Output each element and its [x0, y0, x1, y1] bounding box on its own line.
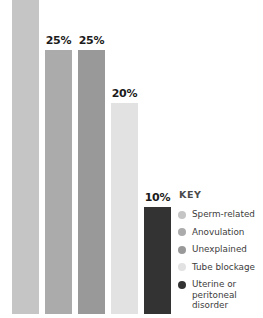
legend-label-tube-blockage: Tube blockage — [192, 262, 255, 273]
legend-swatch-uterine-or-peritoneal-disorder — [178, 281, 186, 289]
legend-swatch-unexplained — [178, 246, 186, 254]
chart-legend: KEY Sperm-relatedAnovulationUnexplainedT… — [178, 189, 263, 318]
bar-unexplained[interactable] — [78, 50, 105, 314]
bar-group-sperm-related[interactable] — [12, 0, 39, 314]
legend-item-list: Sperm-relatedAnovulationUnexplainedTube … — [178, 209, 263, 311]
bar-group-anovulation[interactable]: 25% — [45, 50, 72, 314]
legend-label-anovulation: Anovulation — [192, 227, 244, 238]
legend-title: KEY — [179, 189, 263, 200]
legend-item-tube-blockage[interactable]: Tube blockage — [178, 262, 263, 273]
legend-label-uterine-or-peritoneal-disorder: Uterine or peritoneal disorder — [192, 279, 263, 311]
legend-swatch-sperm-related — [178, 211, 186, 219]
bar-group-uterine-or-peritoneal-disorder[interactable]: 10% — [144, 207, 171, 314]
legend-swatch-tube-blockage — [178, 263, 186, 271]
bar-value-label-uterine-or-peritoneal-disorder: 10% — [145, 192, 171, 203]
bar-group-tube-blockage[interactable]: 20% — [111, 103, 138, 314]
bar-sperm-related[interactable] — [12, 0, 39, 314]
bar-value-label-unexplained: 25% — [79, 35, 105, 46]
legend-item-sperm-related[interactable]: Sperm-related — [178, 209, 263, 220]
plot-area: 25%25%20%10% — [0, 0, 178, 318]
legend-swatch-anovulation — [178, 228, 186, 236]
legend-item-anovulation[interactable]: Anovulation — [178, 227, 263, 238]
bar-anovulation[interactable] — [45, 50, 72, 314]
bar-chart: 25%25%20%10% KEY Sperm-relatedAnovulatio… — [0, 0, 263, 318]
bar-value-label-anovulation: 25% — [46, 35, 72, 46]
bar-group-unexplained[interactable]: 25% — [78, 50, 105, 314]
bar-uterine-or-peritoneal-disorder[interactable] — [144, 207, 171, 314]
bar-tube-blockage[interactable] — [111, 103, 138, 314]
legend-item-unexplained[interactable]: Unexplained — [178, 244, 263, 255]
legend-label-unexplained: Unexplained — [192, 244, 247, 255]
legend-label-sperm-related: Sperm-related — [192, 209, 255, 220]
legend-item-uterine-or-peritoneal-disorder[interactable]: Uterine or peritoneal disorder — [178, 279, 263, 311]
bar-value-label-tube-blockage: 20% — [112, 88, 138, 99]
